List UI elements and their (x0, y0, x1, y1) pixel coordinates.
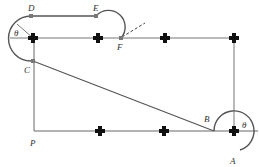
label-d: D (27, 3, 35, 13)
cross-icon (229, 33, 239, 43)
label-p: P (29, 138, 36, 148)
label-theta-right: θ (242, 120, 247, 130)
cross-icon (229, 126, 239, 136)
cross-icon (93, 33, 103, 43)
diagonal-line-cb (33, 61, 214, 131)
label-a: A (229, 156, 236, 166)
label-b: B (204, 114, 210, 124)
label-theta-left: θ (14, 28, 19, 38)
top-track (31, 10, 125, 38)
geometry-diagram: D E F C P B A θ θ (0, 0, 259, 167)
label-e: E (92, 3, 99, 13)
label-f: F (116, 42, 123, 52)
cross-icon (95, 126, 105, 136)
label-c: C (24, 65, 31, 75)
marker-c (31, 59, 35, 63)
cross-icon (160, 33, 170, 43)
cross-icon (159, 126, 169, 136)
marker-d (29, 14, 33, 18)
left-radius-line (17, 24, 33, 38)
marker-e (94, 14, 98, 18)
marker-f (119, 36, 123, 40)
